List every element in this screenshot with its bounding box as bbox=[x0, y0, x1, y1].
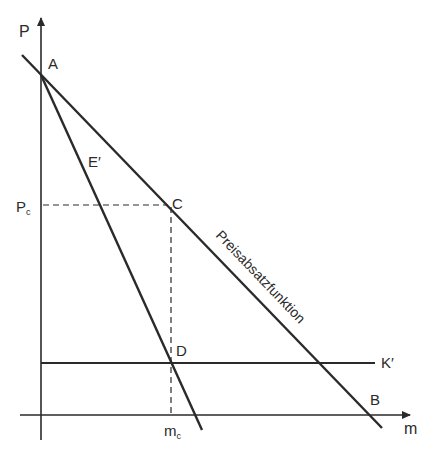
point-b-label: B bbox=[370, 391, 380, 408]
point-a-label: A bbox=[48, 55, 58, 72]
quantity-tick-mc: mc bbox=[164, 422, 182, 441]
quantity-axis-label: m bbox=[404, 420, 417, 437]
price-tick-pc: Pc bbox=[16, 198, 31, 217]
diagram-canvas: P m A B C D E′ K′ Preisabsatzfunktion Pc… bbox=[0, 0, 431, 454]
demand-curve-label: Preisabsatzfunktion bbox=[213, 227, 309, 326]
marginal-revenue-curve bbox=[41, 75, 202, 430]
demand-curve bbox=[22, 55, 382, 428]
price-quantity-diagram: P m A B C D E′ K′ Preisabsatzfunktion Pc… bbox=[0, 0, 431, 454]
point-c-label: C bbox=[172, 195, 183, 212]
point-d-label: D bbox=[176, 342, 187, 359]
marginal-cost-label: K′ bbox=[381, 354, 394, 371]
marginal-revenue-label: E′ bbox=[88, 153, 101, 170]
price-axis-label: P bbox=[19, 23, 30, 40]
